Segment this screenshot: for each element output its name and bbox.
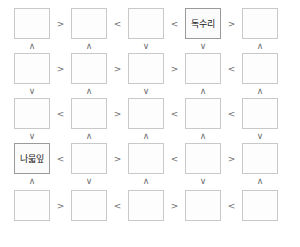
horizontal-inequality-operator: < [107, 190, 128, 221]
vertical-inequality-operator: ∧ [128, 129, 164, 143]
vertical-inequality-operator: ∧ [128, 174, 164, 188]
horizontal-inequality-operator: < [221, 53, 242, 84]
puzzle-cell-empty[interactable] [128, 53, 164, 84]
puzzle-cell-label: 독수리 [190, 19, 215, 29]
puzzle-row: 독수리><<> [0, 8, 300, 39]
vertical-operator-band: ∨∧∧∧∨ [0, 129, 300, 143]
horizontal-inequality-operator: < [164, 143, 185, 174]
puzzle-cell-empty[interactable] [128, 98, 164, 129]
vertical-inequality-operator: ∧ [242, 174, 278, 188]
puzzle-cell-empty[interactable] [71, 98, 107, 129]
horizontal-inequality-operator: > [50, 53, 71, 84]
puzzle-cell-empty[interactable] [71, 53, 107, 84]
horizontal-inequality-operator: > [107, 53, 128, 84]
horizontal-inequality-operator: < [221, 98, 242, 129]
puzzle-cell-filled[interactable]: 독수리 [185, 8, 221, 39]
puzzle-cell-empty[interactable] [128, 8, 164, 39]
vertical-inequality-operator: ∧ [71, 129, 107, 143]
horizontal-inequality-operator: > [50, 8, 71, 39]
puzzle-row: 나묿잎<><> [0, 143, 300, 174]
horizontal-inequality-operator: > [221, 8, 242, 39]
puzzle-cell-empty[interactable] [242, 143, 278, 174]
vertical-inequality-operator: ∧ [71, 84, 107, 98]
puzzle-cell-empty[interactable] [14, 53, 50, 84]
horizontal-inequality-operator: > [107, 143, 128, 174]
puzzle-row: <><< [0, 98, 300, 129]
futoshiki-puzzle-board: 독수리><<>∧∧∨∨∧>>><∨∧∨∧∧<><<∨∧∧∧∨나묿잎<><>∧∨∧… [0, 0, 300, 247]
vertical-operator-band: ∨∧∨∧∧ [0, 84, 300, 98]
puzzle-cell-filled[interactable]: 나묿잎 [14, 143, 50, 174]
horizontal-inequality-operator: < [164, 8, 185, 39]
horizontal-inequality-operator: > [164, 190, 185, 221]
vertical-inequality-operator: ∨ [128, 39, 164, 53]
puzzle-cell-empty[interactable] [242, 53, 278, 84]
puzzle-cell-label: 나묿잎 [19, 154, 44, 164]
puzzle-cell-empty[interactable] [14, 190, 50, 221]
horizontal-inequality-operator: < [164, 98, 185, 129]
puzzle-cell-empty[interactable] [185, 53, 221, 84]
horizontal-inequality-operator: > [50, 190, 71, 221]
vertical-inequality-operator: ∧ [14, 39, 50, 53]
vertical-inequality-operator: ∨ [128, 84, 164, 98]
puzzle-cell-empty[interactable] [185, 190, 221, 221]
vertical-inequality-operator: ∧ [242, 39, 278, 53]
vertical-operator-band: ∧∧∨∨∧ [0, 39, 300, 53]
vertical-inequality-operator: ∧ [71, 39, 107, 53]
vertical-inequality-operator: ∧ [185, 129, 221, 143]
horizontal-inequality-operator: > [221, 143, 242, 174]
puzzle-cell-empty[interactable] [71, 143, 107, 174]
vertical-inequality-operator: ∧ [14, 174, 50, 188]
puzzle-cell-empty[interactable] [185, 143, 221, 174]
puzzle-cell-empty[interactable] [128, 190, 164, 221]
horizontal-inequality-operator: < [107, 8, 128, 39]
vertical-inequality-operator: ∨ [185, 174, 221, 188]
vertical-inequality-operator: ∨ [242, 129, 278, 143]
horizontal-inequality-operator: < [50, 143, 71, 174]
puzzle-cell-empty[interactable] [14, 98, 50, 129]
puzzle-cell-empty[interactable] [71, 8, 107, 39]
vertical-inequality-operator: ∨ [14, 129, 50, 143]
vertical-inequality-operator: ∨ [185, 39, 221, 53]
horizontal-inequality-operator: > [107, 98, 128, 129]
puzzle-row: >>>< [0, 53, 300, 84]
puzzle-cell-empty[interactable] [185, 98, 221, 129]
puzzle-cell-empty[interactable] [242, 190, 278, 221]
horizontal-inequality-operator: > [164, 53, 185, 84]
horizontal-inequality-operator: < [50, 98, 71, 129]
vertical-inequality-operator: ∨ [14, 84, 50, 98]
vertical-operator-band: ∧∨∧∨∧ [0, 174, 300, 188]
puzzle-cell-empty[interactable] [128, 143, 164, 174]
puzzle-row: ><>< [0, 190, 300, 221]
vertical-inequality-operator: ∧ [242, 84, 278, 98]
puzzle-cell-empty[interactable] [71, 190, 107, 221]
vertical-inequality-operator: ∧ [185, 84, 221, 98]
horizontal-inequality-operator: < [221, 190, 242, 221]
puzzle-cell-empty[interactable] [242, 98, 278, 129]
puzzle-cell-empty[interactable] [14, 8, 50, 39]
puzzle-cell-empty[interactable] [242, 8, 278, 39]
vertical-inequality-operator: ∨ [71, 174, 107, 188]
